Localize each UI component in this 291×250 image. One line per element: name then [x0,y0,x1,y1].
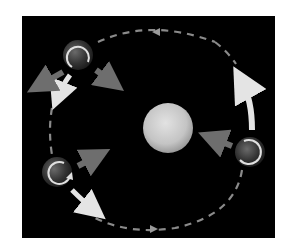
gray-arrow-right-sun-icon [212,138,232,146]
gray-arrow-topleft-sun-icon [96,70,112,82]
sun [143,103,193,153]
gray-arrow-topleft-out-icon [40,72,63,85]
planet-right [235,137,265,167]
orbit-motion-arrow-bottomleft-icon [72,190,94,210]
orbit-diagram [0,0,291,250]
planet-top-left [63,40,93,70]
gray-arrow-bottomleft-icon [78,156,97,166]
orbit-arrow-bottom-icon [150,225,158,233]
orbit-motion-arrow-right-icon [242,82,252,130]
planet-bottom-left [42,157,73,187]
orbit-motion-arrow-topleft-icon [58,75,70,96]
